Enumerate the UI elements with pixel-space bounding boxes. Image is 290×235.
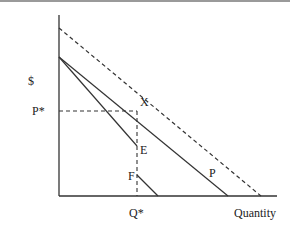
diagram-canvas: $ P* X E F P Q* Quantity: [0, 0, 290, 235]
point-p-label: P: [209, 166, 216, 180]
point-x-label: X: [140, 95, 149, 109]
dashed-demand-line: [59, 28, 261, 196]
point-f-label: F: [128, 169, 135, 183]
q-star-label: Q*: [129, 206, 144, 220]
y-axis-label: $: [28, 74, 34, 88]
x-axis-label: Quantity: [234, 206, 276, 220]
p-star-label: P*: [32, 104, 45, 118]
f-line: [137, 175, 158, 196]
e-line: [59, 57, 137, 146]
point-e-label: E: [140, 143, 147, 157]
p-line: [59, 57, 228, 196]
economics-diagram: $ P* X E F P Q* Quantity: [0, 0, 290, 235]
